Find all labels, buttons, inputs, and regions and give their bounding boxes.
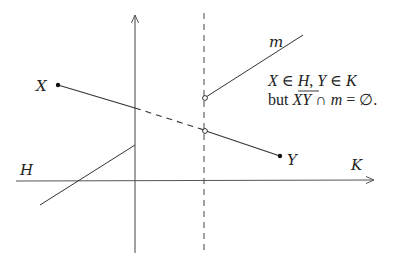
ann-comma: , [309,72,317,89]
label-k: K [350,156,363,174]
ann-in-1: ∈ [278,72,298,89]
label-h: H [19,161,34,179]
horizontal-axis-line [16,180,374,181]
hollow-point-m [203,96,208,101]
ann-xy: XY [291,91,313,108]
ann-m: m [331,91,343,108]
hollow-point-xy [203,129,208,134]
point-x [56,83,60,87]
segment-xy-solid-left [58,85,135,108]
ann-in-2: ∈ [326,72,346,89]
ann-but: but [268,91,292,108]
h-diagonal-line [40,145,135,205]
segment-xy-solid-right [206,131,280,156]
ann-k: K [345,72,358,89]
ann-cap: ∩ [311,91,331,108]
label-x: X [35,77,48,95]
label-m: m [269,33,283,51]
ann-eq: = ∅. [342,91,377,108]
diagram-canvas: X Y H K m X ∈ H, Y ∈ K but XY ∩ m = ∅. [0,0,394,272]
segment-xy-dashed [135,108,204,130]
annotation-line-1: X ∈ H, Y ∈ K [267,72,358,89]
point-y [278,154,282,158]
annotation-line-2: but XY ∩ m = ∅. [268,91,377,108]
label-y: Y [287,151,299,169]
